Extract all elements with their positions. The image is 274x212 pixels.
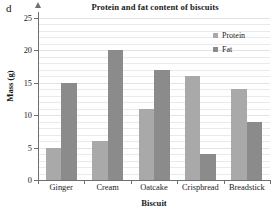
bar-fat-breadstick: [247, 122, 263, 180]
x-category-label: Breadstick: [229, 183, 265, 193]
bar-protein-cream: [92, 141, 108, 180]
legend-label: Protein: [222, 31, 245, 40]
y-axis-arrow-icon: [35, 2, 41, 8]
y-tick-label: 10: [24, 111, 32, 120]
y-tick-mark: [34, 148, 38, 149]
y-tick-label: 15: [24, 78, 32, 87]
part-label: d: [6, 2, 12, 14]
x-axis-line: [38, 180, 270, 181]
y-tick-mark: [34, 83, 38, 84]
x-axis-category-labels: GingerCreamOatcakeCrispbreadBreadstick: [38, 183, 270, 195]
legend: ProteinFat: [213, 29, 273, 57]
legend-item: Protein: [213, 29, 273, 41]
x-category-label: Cream: [96, 183, 118, 193]
x-category-label: Ginger: [50, 183, 73, 193]
y-tick-mark: [34, 50, 38, 51]
bar-protein-breadstick: [231, 89, 247, 180]
y-tick-label: 5: [28, 143, 32, 152]
y-tick-mark: [34, 115, 38, 116]
y-tick-label: 0: [28, 176, 32, 185]
legend-label: Fat: [222, 45, 232, 54]
x-tick-mark: [270, 180, 271, 184]
bar-fat-ginger: [61, 83, 77, 180]
legend-swatch-fat: [213, 47, 218, 52]
legend-swatch-protein: [213, 33, 218, 38]
bar-protein-oatcake: [139, 109, 155, 180]
x-category-label: Oatcake: [140, 183, 167, 193]
bar-protein-crispbread: [185, 76, 201, 180]
y-tick-mark: [34, 18, 38, 19]
x-category-label: Crispbread: [182, 183, 219, 193]
bar-fat-crispbread: [200, 154, 216, 180]
chart-figure: d Protein and fat content of biscuits 05…: [0, 0, 274, 212]
bar-protein-ginger: [46, 148, 62, 180]
y-tick-label: 20: [24, 46, 32, 55]
y-tick-label: 25: [24, 14, 32, 23]
chart-title: Protein and fat content of biscuits: [40, 2, 270, 13]
bar-fat-cream: [108, 50, 124, 180]
legend-item: Fat: [213, 43, 273, 55]
x-axis-title: Biscuit: [38, 198, 270, 208]
bar-fat-oatcake: [154, 70, 170, 180]
y-axis-title: Mass (g): [5, 70, 15, 101]
